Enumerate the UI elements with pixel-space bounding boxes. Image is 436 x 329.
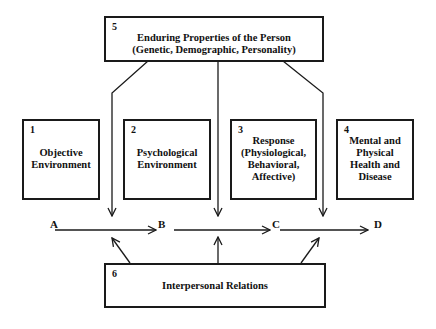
box-objective-environment: 1 Objective Environment (22, 119, 100, 200)
box-number: 5 (112, 21, 117, 32)
arrow-6-to-ab (112, 238, 130, 263)
box-health-and-disease: 4 Mental and Physical Health and Disease (336, 119, 414, 200)
node-c: C (272, 218, 280, 230)
box-response: 3 Response (Physiological, Behavioral, A… (230, 119, 317, 200)
box-interpersonal-relations: 6 Interpersonal Relations (104, 263, 326, 308)
box-number: 3 (238, 124, 243, 135)
box-title: Objective Environment (24, 147, 98, 171)
box-title: Enduring Properties of the Person (Genet… (106, 32, 322, 56)
box-title: Response (Physiological, Behavioral, Aff… (232, 135, 315, 183)
box-number: 4 (344, 124, 349, 135)
node-a: A (50, 218, 58, 230)
box-enduring-properties: 5 Enduring Properties of the Person (Gen… (104, 16, 324, 62)
box-psychological-environment: 2 Psychological Environment (123, 119, 211, 200)
arrow-6-to-cd (301, 238, 319, 263)
box-title: Interpersonal Relations (106, 280, 324, 292)
node-d: D (374, 218, 382, 230)
box-number: 1 (30, 124, 35, 135)
node-b: B (158, 218, 165, 230)
box-title: Mental and Physical Health and Disease (338, 135, 412, 183)
box-number: 2 (131, 124, 136, 135)
box-number: 6 (112, 268, 117, 279)
box-title: Psychological Environment (125, 147, 209, 171)
